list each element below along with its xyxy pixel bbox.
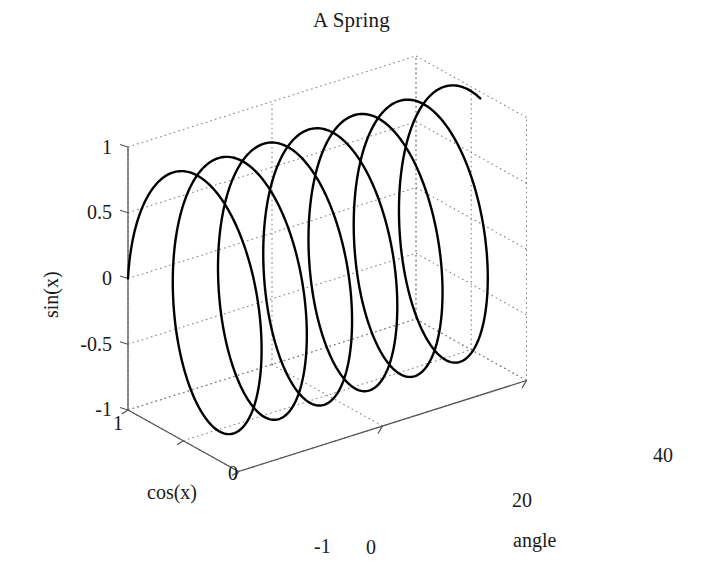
grid-line-floor-x <box>272 365 383 427</box>
ytick-label-0: 0 <box>228 462 238 485</box>
ztick-mark <box>120 210 128 213</box>
yaxis-label: cos(x) <box>147 481 197 504</box>
ztick-label-0: 0 <box>62 267 112 290</box>
ztick-label-0-5: 0.5 <box>52 201 112 224</box>
ztick-mark <box>120 408 128 411</box>
ztick-label-neg0-5: -0.5 <box>42 333 112 356</box>
xtick-label-40: 40 <box>653 444 673 467</box>
ztick-label-neg1: -1 <box>52 398 112 421</box>
helix-curve <box>128 85 488 434</box>
ytick-label-neg1: -1 <box>314 535 331 558</box>
xtick-label-0: 0 <box>366 536 376 559</box>
xaxis-label: angle <box>513 529 556 552</box>
figure-canvas: A Spring 1 0.5 0 -0.5 -1 sin(x) 1 0 -1 c… <box>0 0 703 579</box>
ytick-mark <box>177 441 183 445</box>
ztick-mark <box>120 145 128 148</box>
xtick-label-20: 20 <box>512 489 532 512</box>
zaxis-label: sin(x) <box>40 271 63 318</box>
ztick-label-1: 1 <box>62 136 112 159</box>
ztick-mark <box>120 342 128 345</box>
ytick-label-1: 1 <box>113 412 123 435</box>
ztick-mark <box>120 276 128 279</box>
